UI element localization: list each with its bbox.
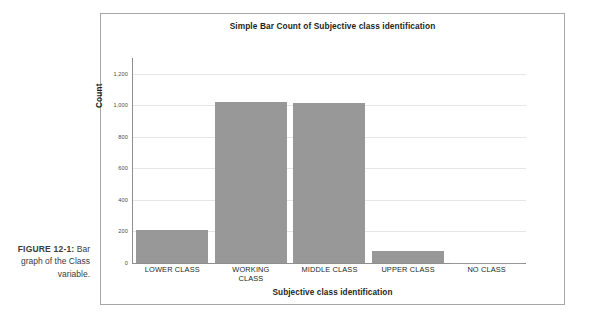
- y-axis-tick-label: 1,000: [114, 102, 129, 108]
- chart-title: Simple Bar Count of Subjective class ide…: [101, 21, 564, 31]
- y-axis-tick-label: 800: [118, 134, 128, 140]
- x-axis-category-label: WORKINGCLASS: [212, 265, 291, 284]
- figure-frame: Simple Bar Count of Subjective class ide…: [100, 13, 565, 305]
- bar-slot: [212, 58, 291, 263]
- y-axis-tick-label: 0: [125, 260, 128, 266]
- figure-caption: FIGURE 12-1: Bar graph of the Class vari…: [0, 243, 90, 280]
- y-axis-tick-label: 600: [118, 165, 128, 171]
- bar-slot: [290, 58, 369, 263]
- bar-slot: [133, 58, 212, 263]
- bar[interactable]: [136, 230, 208, 263]
- y-axis-title: Count: [95, 83, 104, 108]
- x-axis-title: Subjective class identification: [101, 288, 564, 297]
- figure-caption-number: FIGURE 12-1:: [18, 244, 75, 254]
- x-axis-category-labels: LOWER CLASSWORKINGCLASSMIDDLE CLASSUPPER…: [133, 265, 526, 284]
- y-axis-tick-label: 400: [118, 197, 128, 203]
- x-axis-category-label-line: WORKING: [212, 265, 291, 274]
- x-axis-category-label-line: LOWER CLASS: [133, 265, 212, 274]
- bar-series: [133, 58, 526, 263]
- x-axis-category-label: NO CLASS: [447, 265, 526, 284]
- bar[interactable]: [372, 251, 444, 263]
- x-axis-category-label: UPPER CLASS: [369, 265, 448, 284]
- x-axis-category-label: MIDDLE CLASS: [290, 265, 369, 284]
- bar-slot: [369, 58, 448, 263]
- x-axis-category-label-line: MIDDLE CLASS: [290, 265, 369, 274]
- x-axis-category-label-line: NO CLASS: [447, 265, 526, 274]
- x-axis-category-label-line: CLASS: [212, 274, 291, 283]
- plot-area: 02004006008001,0001,200: [132, 58, 526, 263]
- bar[interactable]: [293, 103, 365, 263]
- y-axis-tick-label: 200: [118, 228, 128, 234]
- x-axis-line: [132, 263, 526, 264]
- y-axis-tick-label: 1,200: [114, 71, 129, 77]
- bar-slot: [447, 58, 526, 263]
- x-axis-category-label: LOWER CLASS: [133, 265, 212, 284]
- bar[interactable]: [215, 102, 287, 263]
- x-axis-category-label-line: UPPER CLASS: [369, 265, 448, 274]
